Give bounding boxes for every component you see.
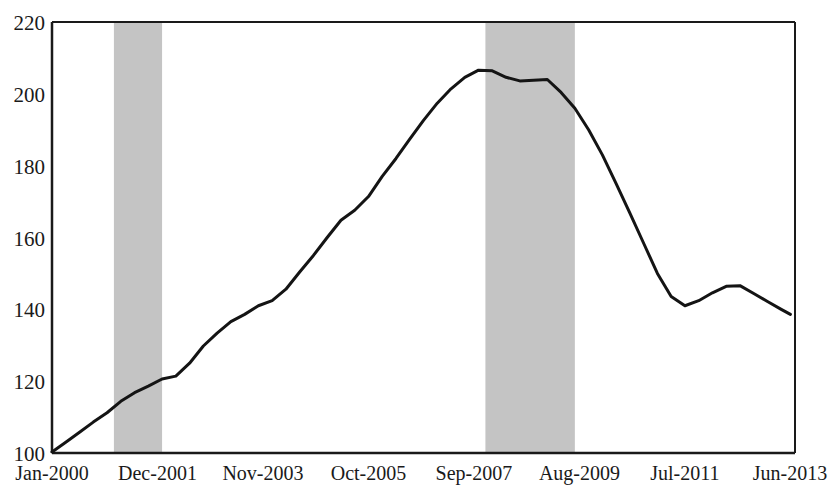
x-axis-tick-label: Dec-2001 [118, 462, 197, 484]
x-axis-tick-label: Aug-2009 [539, 462, 620, 485]
x-axis-tick-label: Jan-2000 [15, 462, 88, 484]
recession-band-1 [114, 22, 162, 453]
x-axis-tick-label: Sep-2007 [436, 462, 513, 485]
recession-band-2 [485, 22, 574, 453]
x-axis-tick-label: Jun-2013 [753, 462, 827, 484]
y-axis-tick-label: 220 [14, 11, 46, 35]
x-axis-tick-label: Nov-2003 [222, 462, 303, 484]
y-axis-tick-label: 160 [14, 227, 46, 251]
line-chart: 100120140160180200220 Jan-2000Dec-2001No… [0, 0, 834, 487]
chart-container: 100120140160180200220 Jan-2000Dec-2001No… [0, 0, 834, 487]
y-axis-tick-label: 140 [14, 298, 46, 322]
y-axis-tick-label: 200 [14, 83, 46, 107]
y-axis-tick-label: 120 [14, 370, 46, 394]
x-axis-tick-label: Oct-2005 [331, 462, 407, 484]
x-axis-tick-label: Jul-2011 [650, 462, 719, 484]
y-axis-tick-label: 180 [14, 155, 46, 179]
